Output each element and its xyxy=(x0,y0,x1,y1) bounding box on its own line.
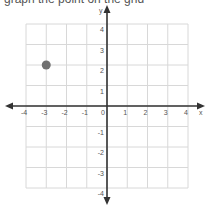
y-tick-label: -1 xyxy=(98,129,104,136)
plotted-point[interactable] xyxy=(42,61,51,70)
x-tick-label: -1 xyxy=(82,109,88,116)
y-tick-label: 4 xyxy=(100,26,104,33)
x-tick-label: -2 xyxy=(61,109,67,116)
x-tick-label: 3 xyxy=(164,109,168,116)
coordinate-plane[interactable]: -4-3-2-1012344321-1-2-3-4xy xyxy=(0,0,211,210)
x-tick-label: -4 xyxy=(21,109,27,116)
y-tick-label: 3 xyxy=(100,47,104,54)
y-tick-label: -3 xyxy=(98,170,104,177)
y-tick-label: -4 xyxy=(98,190,104,197)
y-tick-label: -2 xyxy=(98,149,104,156)
x-tick-label: 2 xyxy=(144,109,148,116)
y-axis-down-arrow-icon xyxy=(104,197,111,205)
x-tick-label: 1 xyxy=(123,109,127,116)
y-tick-label: 2 xyxy=(100,67,104,74)
y-axis-label: y xyxy=(99,7,103,15)
y-tick-label: 1 xyxy=(100,88,104,95)
x-tick-label: -3 xyxy=(41,109,47,116)
x-tick-label: 0 xyxy=(101,109,105,116)
y-axis-up-arrow-icon xyxy=(104,5,111,13)
x-axis-label: x xyxy=(199,109,203,116)
x-axis-left-arrow-icon xyxy=(5,103,13,110)
x-tick-label: 4 xyxy=(184,109,188,116)
